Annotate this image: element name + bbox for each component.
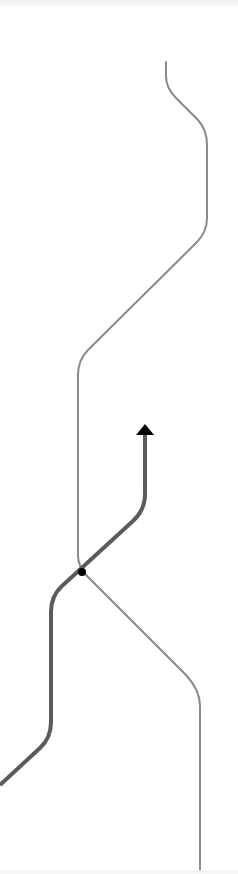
route-diagram (0, 0, 238, 874)
bottom-edge-strip (0, 870, 238, 874)
active-route-line (0, 434, 145, 785)
junction-dot-icon (78, 568, 86, 576)
other-road-line (78, 62, 207, 874)
direction-arrow-icon (136, 424, 154, 435)
